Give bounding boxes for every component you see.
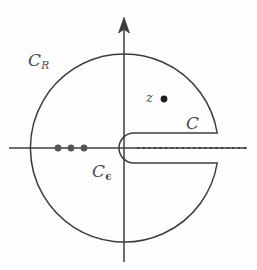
label-point-z-base: z bbox=[146, 90, 153, 105]
real-axis-pole-dot bbox=[81, 145, 88, 152]
label-inner-circle: Cϵ bbox=[92, 163, 111, 180]
label-outer-circle-base: C bbox=[28, 50, 41, 70]
label-inner-circle-subscript: ϵ bbox=[105, 170, 111, 182]
label-contour-base: C bbox=[186, 113, 199, 133]
label-point-z: z bbox=[146, 91, 153, 104]
label-outer-circle: CR bbox=[28, 52, 49, 69]
real-axis-pole-dot bbox=[68, 145, 75, 152]
complex-contour-figure: CR Cϵ C z bbox=[0, 0, 257, 270]
contour-diagram-svg bbox=[0, 0, 257, 270]
label-contour: C bbox=[186, 115, 199, 132]
real-axis-pole-dot bbox=[55, 145, 62, 152]
label-inner-circle-base: C bbox=[92, 161, 105, 181]
label-outer-circle-subscript: R bbox=[41, 59, 49, 71]
point-z-marker bbox=[161, 96, 168, 103]
